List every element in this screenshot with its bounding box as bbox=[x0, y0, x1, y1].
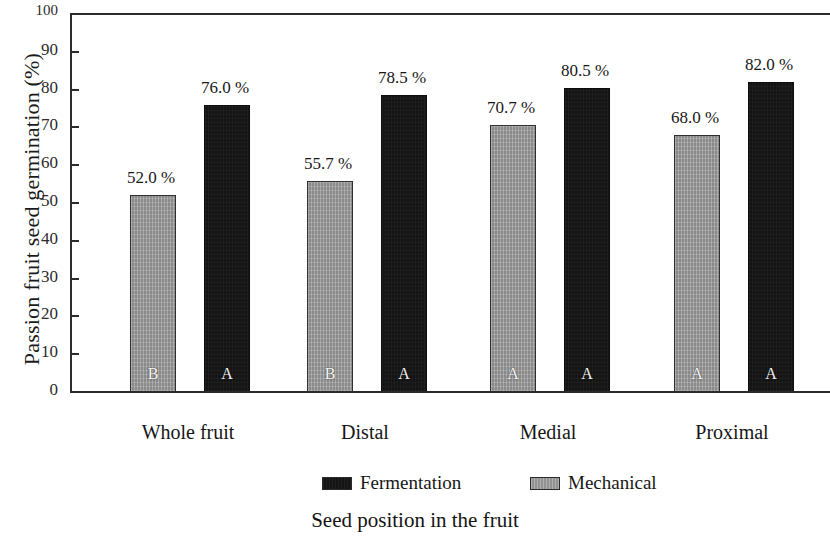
bar-chart-figure: Passion fruit seed germination (%) 10090… bbox=[0, 0, 830, 540]
bar-significance-letter: A bbox=[749, 365, 793, 383]
y-axis-tick: 20 bbox=[0, 315, 70, 316]
legend-label-mechanical: Mechanical bbox=[568, 472, 657, 494]
bar-value-label: 52.0 % bbox=[108, 168, 194, 188]
y-axis-tick: 90 bbox=[0, 51, 70, 52]
x-axis-category-label: Distal bbox=[275, 421, 455, 444]
x-axis-category-label: Proximal bbox=[642, 421, 822, 444]
legend-swatch-mechanical bbox=[530, 477, 560, 490]
bar-value-label: 76.0 % bbox=[182, 78, 268, 98]
y-axis-tick: 30 bbox=[0, 278, 70, 279]
bar-significance-letter: A bbox=[382, 365, 426, 383]
y-axis-tick-label: 20 bbox=[41, 304, 58, 324]
bar-significance-letter: A bbox=[565, 365, 609, 383]
y-axis-tick: 80 bbox=[0, 89, 70, 90]
x-axis-category-label: Medial bbox=[458, 421, 638, 444]
bar-mechanical: B bbox=[130, 195, 176, 392]
legend-swatch-fermentation bbox=[322, 477, 352, 490]
x-axis-title: Seed position in the fruit bbox=[0, 508, 830, 533]
bar-significance-letter: B bbox=[308, 365, 352, 383]
bar-fermentation: A bbox=[564, 88, 610, 392]
y-axis-tick-label: 40 bbox=[41, 229, 58, 249]
legend-item-mechanical: Mechanical bbox=[530, 472, 657, 494]
bar-significance-letter: A bbox=[491, 365, 535, 383]
chart-legend: FermentationMechanical bbox=[0, 472, 830, 498]
y-axis-tick: 70 bbox=[0, 126, 70, 127]
y-axis-tick: 10 bbox=[0, 353, 70, 354]
bar-significance-letter: A bbox=[205, 365, 249, 383]
bar-significance-letter: B bbox=[131, 365, 175, 383]
x-axis-category-label: Whole fruit bbox=[98, 421, 278, 444]
bar-value-label: 68.0 % bbox=[652, 108, 738, 128]
y-axis-tick-label: 80 bbox=[41, 78, 58, 98]
bar-fermentation: A bbox=[204, 105, 250, 392]
y-axis-tick-label: 90 bbox=[41, 40, 58, 60]
bar-significance-letter: A bbox=[675, 365, 719, 383]
y-axis-tick: 50 bbox=[0, 202, 70, 203]
bar-mechanical: A bbox=[674, 135, 720, 392]
plot-area: BABAAAAA bbox=[70, 13, 830, 392]
legend-item-fermentation: Fermentation bbox=[322, 472, 461, 494]
y-axis-tick: 100 bbox=[0, 13, 70, 14]
bar-mechanical: B bbox=[307, 181, 353, 392]
bar-fermentation: A bbox=[748, 82, 794, 392]
y-axis-tick-label: 70 bbox=[41, 115, 58, 135]
y-axis-tick: 40 bbox=[0, 240, 70, 241]
bar-value-label: 82.0 % bbox=[726, 55, 812, 75]
y-axis-tick: 0 bbox=[0, 391, 70, 392]
bar-value-label: 55.7 % bbox=[285, 154, 371, 174]
bar-value-label: 70.7 % bbox=[468, 98, 554, 118]
y-axis-tick-label: 50 bbox=[41, 191, 58, 211]
y-axis-tick: 60 bbox=[0, 164, 70, 165]
y-axis-tick-label: 0 bbox=[50, 380, 59, 400]
bar-value-label: 78.5 % bbox=[359, 68, 445, 88]
bar-value-label: 80.5 % bbox=[542, 61, 628, 81]
y-axis-tick-label: 60 bbox=[41, 153, 58, 173]
y-axis-tick-label: 30 bbox=[41, 267, 58, 287]
y-axis-tick-label: 100 bbox=[36, 0, 59, 20]
x-axis-line bbox=[70, 391, 830, 393]
bar-mechanical: A bbox=[490, 125, 536, 392]
bar-fermentation: A bbox=[381, 95, 427, 392]
y-axis-tick-label: 10 bbox=[41, 342, 58, 362]
legend-label-fermentation: Fermentation bbox=[360, 472, 461, 494]
